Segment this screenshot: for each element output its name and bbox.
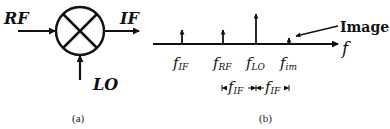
caption-a: (a) bbox=[72, 112, 85, 125]
mixer-symbol bbox=[56, 7, 104, 55]
image-pointer-arrow bbox=[296, 26, 338, 36]
caption-b: (b) bbox=[259, 112, 272, 125]
tick-label-f-if: fIF bbox=[172, 54, 189, 72]
tick-label-f-im: fim bbox=[279, 54, 297, 72]
rf-label: RF bbox=[3, 9, 30, 28]
mixer-figure: RF IF LO (a) f Image fIF fRF fLO fim bbox=[0, 0, 390, 129]
if-label: IF bbox=[119, 9, 140, 28]
lo-label: LO bbox=[92, 75, 118, 94]
image-label: Image bbox=[340, 19, 389, 35]
tick-label-f-lo: fLO bbox=[245, 54, 266, 72]
panel-b: f Image fIF fRF fLO fim bbox=[153, 14, 389, 125]
axis-label-f: f bbox=[340, 38, 351, 58]
tick-label-f-rf: fRF bbox=[212, 54, 232, 72]
spacing-label-2: fIF bbox=[264, 78, 281, 96]
panel-a: RF IF LO (a) bbox=[3, 7, 140, 125]
spacing-label-1: fIF bbox=[227, 78, 244, 96]
